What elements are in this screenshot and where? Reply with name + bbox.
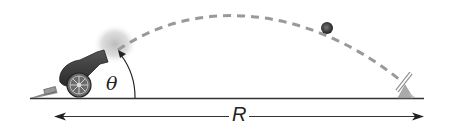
cannon-icon	[30, 50, 108, 98]
projectile-diagram	[0, 0, 450, 135]
trajectory-path	[118, 16, 400, 80]
target-marker-icon	[397, 73, 416, 98]
cannonball-icon	[321, 22, 333, 34]
angle-label: θ	[106, 72, 117, 94]
range-label: R	[229, 103, 249, 125]
